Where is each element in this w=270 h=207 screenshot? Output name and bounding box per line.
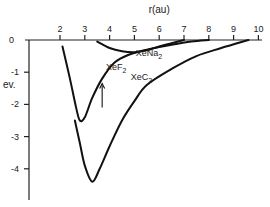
x-tick-label: 6 [157, 24, 162, 34]
label-base: XeNa [136, 48, 159, 58]
curves [62, 40, 248, 182]
y-axis-label: ev. [3, 79, 16, 90]
series-label-xec2: XeC2 [131, 72, 153, 84]
x-tick-label: 2 [57, 24, 62, 34]
y-ticks: 0-1-2-3-4 [9, 35, 29, 174]
label-base: XeF [106, 62, 123, 72]
x-tick-label: 7 [181, 24, 186, 34]
x-tick-label: 5 [132, 24, 137, 34]
label-base: XeC [131, 72, 149, 82]
x-axis-label: r(au) [149, 4, 170, 15]
potential-energy-chart: 2345678910 0-1-2-3-4 r(au) ev. XeF2XeNa2… [0, 0, 270, 207]
label-subscript: 2 [148, 77, 152, 84]
y-tick-label: 0 [9, 35, 14, 45]
label-subscript: 2 [158, 53, 162, 60]
label-subscript: 2 [122, 67, 126, 74]
x-tick-label: 3 [82, 24, 87, 34]
x-tick-label: 4 [107, 24, 112, 34]
axes [25, 40, 262, 200]
x-tick-label: 10 [253, 24, 263, 34]
x-tick-label: 9 [231, 24, 236, 34]
y-tick-label: -3 [11, 132, 19, 142]
series-label-xef2: XeF2 [106, 62, 127, 74]
x-tick-label: 8 [206, 24, 211, 34]
annotations [100, 83, 105, 107]
y-tick-label: -2 [11, 99, 19, 109]
y-tick-label: -1 [11, 67, 19, 77]
curve-xec2 [75, 40, 249, 182]
y-tick-label: -4 [11, 164, 19, 174]
series-label-xena2: XeNa2 [136, 48, 163, 60]
x-ticks: 2345678910 [57, 24, 263, 40]
